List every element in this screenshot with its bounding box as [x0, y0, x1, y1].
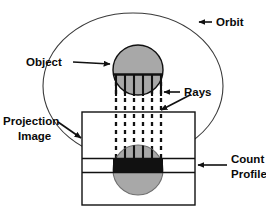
- projection-image-label-line2: Image: [18, 130, 51, 142]
- object-circle: [113, 45, 163, 95]
- object-leader-arrow: [73, 62, 110, 64]
- diagram-canvas: Orbit Object Rays Projection Image Count…: [0, 0, 266, 213]
- count-profile-label-line2: Profile: [231, 168, 266, 180]
- count-profile-block: [113, 158, 163, 173]
- rays-label: Rays: [184, 86, 212, 98]
- count-profile-label-line1: Count: [231, 153, 264, 165]
- spect-geometry-diagram: Orbit Object Rays Projection Image Count…: [0, 0, 266, 213]
- orbit-label: Orbit: [216, 16, 244, 28]
- object-label: Object: [26, 56, 62, 68]
- projection-image-label-line1: Projection: [3, 115, 59, 127]
